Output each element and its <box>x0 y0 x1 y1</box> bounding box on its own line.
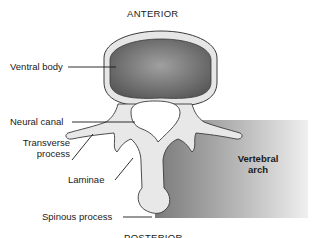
neural-canal-label: Neural canal <box>10 116 63 127</box>
spinous-process-label: Spinous process <box>42 211 112 222</box>
vertebral-arch-label-line2: arch <box>228 164 288 175</box>
ventral-body-label: Ventral body <box>10 61 63 72</box>
leader-laminae <box>115 158 133 180</box>
ventral-body <box>110 39 211 98</box>
laminae-label: Laminae <box>68 174 104 185</box>
transverse-process-label: Transverse process <box>14 137 70 159</box>
vertebral-arch-label-line1: Vertebral <box>228 153 288 164</box>
vertebral-arch-label: Vertebral arch <box>228 153 288 175</box>
posterior-label: POSTERIOR <box>124 232 183 238</box>
anterior-label: ANTERIOR <box>127 8 179 19</box>
transverse-process-label-line2: process <box>14 148 70 159</box>
transverse-process-label-line1: Transverse <box>14 137 70 148</box>
